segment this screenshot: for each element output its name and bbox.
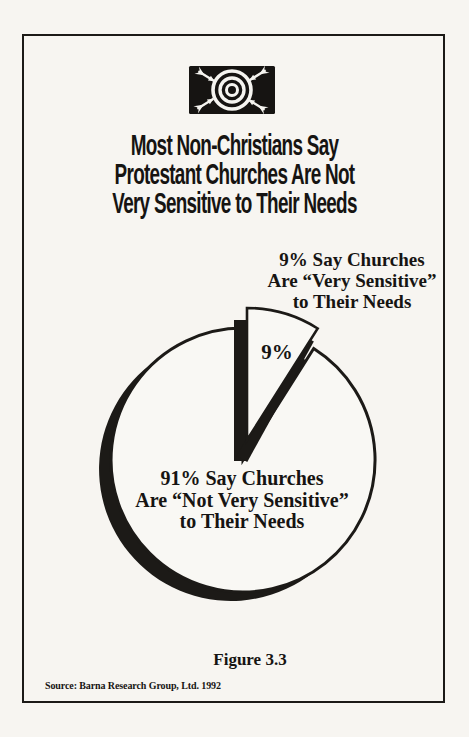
pie-chart-svg: [0, 0, 469, 737]
scanned-figure-page: Most Non-Christians Say Protestant Churc…: [0, 0, 469, 737]
slice-9-callout-line: 9% Say Churches: [252, 249, 452, 270]
slice-91-label-line: to Their Needs: [132, 511, 352, 533]
source-note: Source: Barna Research Group, Ltd. 1992: [45, 680, 221, 691]
figure-caption: Figure 3.3: [160, 650, 340, 670]
slice-9-callout-line: to Their Needs: [252, 291, 452, 312]
slice-9-inner-label: 9%: [247, 340, 307, 365]
slice-9-callout: 9% Say Churches Are “Very Sensitive” to …: [252, 249, 452, 312]
slice-91-label-line: Are “Not Very Sensitive”: [132, 490, 352, 512]
slice-9-callout-line: Are “Very Sensitive”: [252, 270, 452, 291]
slice-91-label: 91% Say Churches Are “Not Very Sensitive…: [132, 468, 352, 533]
slice-91-label-line: 91% Say Churches: [132, 468, 352, 490]
